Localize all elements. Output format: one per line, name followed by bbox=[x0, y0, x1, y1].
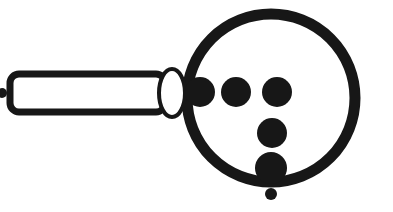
dot-bottom-rim bbox=[255, 152, 287, 184]
dot-inner-left bbox=[185, 77, 215, 107]
dot-center-lower bbox=[257, 118, 287, 148]
dot-inner-right bbox=[262, 77, 292, 107]
lens-collar-ellipse bbox=[159, 69, 185, 117]
dot-below-rim bbox=[265, 188, 277, 200]
magnifier-illustration bbox=[0, 0, 393, 212]
handle-bar bbox=[10, 74, 165, 112]
dot-inner-middle bbox=[221, 77, 251, 107]
illustration-canvas: Black and white line drawing of a magnif… bbox=[0, 0, 393, 212]
